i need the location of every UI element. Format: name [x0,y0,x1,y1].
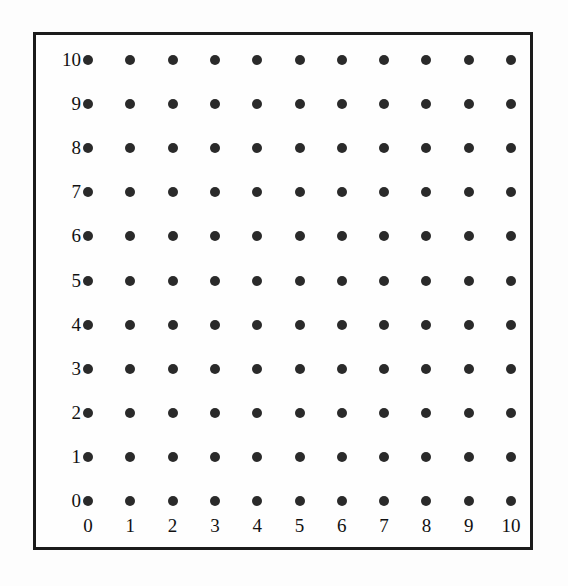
lattice-point [168,99,178,109]
lattice-point [421,276,431,286]
lattice-point [506,408,516,418]
lattice-point-area: 109876543210012345678910 [36,35,530,547]
lattice-point [379,496,389,506]
lattice-point [210,320,220,330]
lattice-point [83,276,93,286]
lattice-point [125,187,135,197]
x-axis-tick-label: 0 [68,516,108,535]
lattice-point [337,143,347,153]
lattice-point [464,143,474,153]
lattice-point [295,496,305,506]
lattice-point [337,276,347,286]
lattice-point [506,55,516,65]
x-axis-tick-label: 1 [110,516,150,535]
lattice-point [337,187,347,197]
lattice-point [295,320,305,330]
lattice-point [379,99,389,109]
lattice-point [210,143,220,153]
lattice-point [125,276,135,286]
lattice-point [168,276,178,286]
lattice-point [464,452,474,462]
lattice-point [506,187,516,197]
lattice-point [295,55,305,65]
lattice-point [83,143,93,153]
lattice-point [421,364,431,374]
lattice-point [125,231,135,241]
lattice-point [210,276,220,286]
lattice-point [125,364,135,374]
y-axis-tick-label: 10 [39,50,81,69]
lattice-point [421,408,431,418]
lattice-point [252,320,262,330]
lattice-point [125,99,135,109]
lattice-point [464,187,474,197]
lattice-point [168,452,178,462]
y-axis-tick-label: 6 [39,226,81,245]
lattice-point [252,276,262,286]
lattice-point [83,99,93,109]
lattice-point [83,320,93,330]
lattice-point [337,55,347,65]
lattice-point [210,231,220,241]
lattice-point [83,452,93,462]
lattice-point [125,143,135,153]
lattice-point [464,231,474,241]
lattice-point [210,55,220,65]
x-axis-tick-label: 4 [237,516,277,535]
lattice-point [379,408,389,418]
lattice-point [295,276,305,286]
lattice-point [295,187,305,197]
lattice-point [421,187,431,197]
lattice-point [506,320,516,330]
lattice-point [337,408,347,418]
lattice-point [168,143,178,153]
lattice-point [125,496,135,506]
lattice-point [421,99,431,109]
lattice-point [125,408,135,418]
lattice-point [464,364,474,374]
lattice-point [83,496,93,506]
y-axis-tick-label: 5 [39,271,81,290]
lattice-point [252,187,262,197]
lattice-point [464,99,474,109]
lattice-point [295,143,305,153]
lattice-point [379,364,389,374]
x-axis-tick-label: 9 [449,516,489,535]
y-axis-tick-label: 0 [39,491,81,510]
lattice-point [379,452,389,462]
lattice-point [168,187,178,197]
lattice-point [83,364,93,374]
lattice-point [83,408,93,418]
lattice-point [210,452,220,462]
plot-frame: 109876543210012345678910 [33,32,533,550]
lattice-point [506,496,516,506]
lattice-point [337,231,347,241]
lattice-point [252,364,262,374]
lattice-point [421,496,431,506]
x-axis-tick-label: 5 [280,516,320,535]
lattice-point [379,143,389,153]
y-axis-tick-label: 3 [39,359,81,378]
lattice-point [295,231,305,241]
lattice-point [464,55,474,65]
lattice-point [337,320,347,330]
x-axis-tick-label: 7 [364,516,404,535]
lattice-point [379,187,389,197]
lattice-point [379,231,389,241]
y-axis-tick-label: 1 [39,447,81,466]
lattice-point [421,320,431,330]
figure-canvas: 109876543210012345678910 [0,0,568,586]
lattice-point [210,408,220,418]
lattice-point [83,187,93,197]
lattice-point [421,55,431,65]
lattice-point [337,364,347,374]
y-axis-tick-label: 4 [39,315,81,334]
lattice-point [252,143,262,153]
lattice-point [210,99,220,109]
lattice-point [506,99,516,109]
lattice-point [464,496,474,506]
lattice-point [464,408,474,418]
lattice-point [252,231,262,241]
lattice-point [295,452,305,462]
lattice-point [295,364,305,374]
